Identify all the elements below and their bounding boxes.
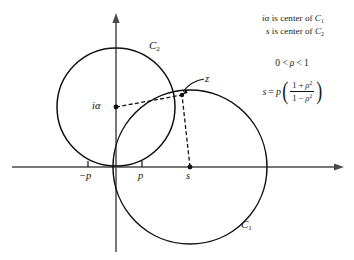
point-label-z: z [205, 74, 209, 85]
y-axis-arrowhead [112, 13, 119, 23]
formula-close-paren: ) [316, 81, 322, 102]
circle-label-c2: C2 [149, 40, 160, 53]
point-s [188, 165, 193, 170]
tick-label-neg-p: −p [79, 171, 91, 182]
formula-fraction: 1 + ρ2 1 − ρ2 [290, 80, 314, 103]
x-axis-arrowhead [334, 163, 344, 170]
formula-numerator: 1 + ρ2 [290, 80, 314, 91]
annotation-block: iα is center of C1 s is center of C2 [232, 12, 352, 38]
y-axis [112, 13, 119, 252]
point-label-ia: iα [92, 101, 100, 112]
radius-ia-to-z [116, 95, 182, 107]
tick-label-s: s [186, 171, 190, 182]
tick-label-p: p [138, 171, 143, 182]
formula-s: s=p ( 1 + ρ2 1 − ρ2 ) [232, 80, 354, 103]
formula-denominator: 1 − ρ2 [290, 91, 314, 103]
radius-s-to-z [182, 95, 190, 167]
annotation-line-ia: iα is center of C1 [232, 12, 352, 25]
x-axis [12, 163, 344, 170]
condition-inequality: 0 < ρ < 1 [232, 58, 352, 68]
formula-open-paren: ( [282, 81, 288, 102]
circle-label-c1: C1 [241, 219, 252, 232]
figure-container: C2 C1 iα z −p p s iα is center of C1 s i… [0, 0, 354, 260]
point-ia [114, 105, 119, 110]
figure-canvas [0, 0, 354, 260]
annotation-line-s: s is center of C2 [232, 25, 352, 38]
